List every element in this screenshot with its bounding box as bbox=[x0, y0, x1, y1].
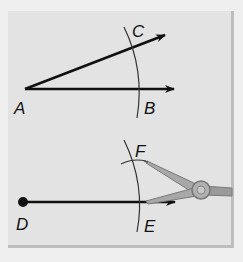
ray-ac bbox=[25, 35, 165, 89]
label-b: B bbox=[144, 99, 155, 118]
label-a: A bbox=[13, 99, 25, 118]
compass-icon bbox=[144, 161, 232, 204]
bottom-construction: F D E bbox=[16, 140, 232, 236]
label-d: D bbox=[16, 215, 28, 234]
label-e: E bbox=[144, 217, 156, 236]
label-f: F bbox=[135, 142, 147, 161]
construction-diagram: C A B F D E bbox=[0, 0, 243, 262]
top-construction: C A B bbox=[13, 22, 174, 118]
label-c: C bbox=[132, 22, 145, 41]
